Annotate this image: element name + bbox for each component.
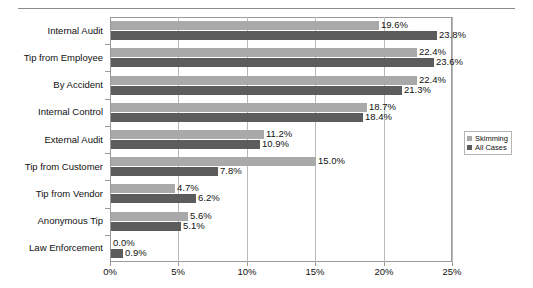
category-tick-mark (105, 71, 110, 72)
legend-item-all-cases: All Cases (467, 143, 508, 152)
legend-swatch-all-cases (467, 145, 472, 150)
category-tick-mark (105, 235, 110, 236)
category-tick-mark (105, 208, 110, 209)
category-label: Internal Control (0, 106, 103, 117)
bar-skimming (111, 21, 379, 30)
bar-skimming (111, 76, 417, 85)
bar-all-cases (111, 249, 123, 258)
legend-swatch-skimming (467, 136, 472, 141)
category-axis-labels: Internal AuditTip from EmployeeBy Accide… (0, 17, 103, 262)
bar-chart-figure: Internal AuditTip from EmployeeBy Accide… (0, 0, 533, 288)
bar-skimming (111, 157, 316, 166)
category-label: External Audit (0, 134, 103, 145)
category-tick-mark (105, 99, 110, 100)
bar-all-cases (111, 86, 402, 95)
bar-skimming (111, 184, 175, 193)
value-tick-label: 25% (432, 266, 472, 277)
category-tick-mark (105, 44, 110, 45)
bar-value-label: 10.9% (262, 139, 289, 149)
bar-skimming (111, 212, 188, 221)
header-divider (18, 8, 515, 9)
bar-value-label: 7.8% (220, 166, 242, 176)
bar-all-cases (111, 167, 218, 176)
bar-all-cases (111, 58, 434, 67)
category-tick-mark (105, 180, 110, 181)
legend-item-skimming: Skimming (467, 134, 508, 143)
legend-label-skimming: Skimming (475, 134, 508, 143)
bar-all-cases (111, 113, 363, 122)
category-tick-mark (105, 153, 110, 154)
category-label: Tip from Employee (0, 52, 103, 63)
bar-skimming (111, 48, 417, 57)
value-tick-label: 20% (364, 266, 404, 277)
bar-value-label: 21.3% (404, 85, 431, 95)
bar-value-label: 23.8% (439, 30, 466, 40)
value-tick-label: 10% (227, 266, 267, 277)
chart-legend: Skimming All Cases (464, 131, 512, 155)
category-tick-mark (105, 126, 110, 127)
bar-value-label: 6.2% (198, 193, 220, 203)
bar-value-label: 19.6% (381, 20, 408, 30)
bar-all-cases (111, 31, 437, 40)
category-label: Tip from Vendor (0, 188, 103, 199)
bar-skimming (111, 103, 367, 112)
category-label: Internal Audit (0, 25, 103, 36)
bar-value-label: 4.7% (177, 183, 199, 193)
value-tick-label: 0% (90, 266, 130, 277)
bar-value-label: 15.0% (318, 156, 345, 166)
category-label: Law Enforcement (0, 242, 103, 253)
category-label: By Accident (0, 79, 103, 90)
bar-skimming (111, 130, 264, 139)
value-tick-label: 5% (158, 266, 198, 277)
bar-all-cases (111, 194, 196, 203)
category-label: Anonymous Tip (0, 215, 103, 226)
bar-value-label: 23.6% (436, 57, 463, 67)
bar-all-cases (111, 222, 181, 231)
bar-value-label: 5.1% (183, 221, 205, 231)
category-label: Tip from Customer (0, 161, 103, 172)
bar-all-cases (111, 140, 260, 149)
value-tick-label: 15% (295, 266, 335, 277)
legend-label-all-cases: All Cases (475, 143, 507, 152)
bar-value-label: 18.4% (365, 112, 392, 122)
bar-value-label: 0.9% (125, 248, 147, 258)
gridline (452, 17, 453, 262)
